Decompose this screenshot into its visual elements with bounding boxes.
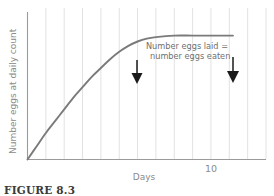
annotation-line-2: number eggs eaten <box>150 51 230 61</box>
axes-group <box>27 12 266 160</box>
x-tick-label: 10 <box>205 163 217 174</box>
arrow-left-icon <box>132 60 143 84</box>
egg-count-chart: 10 Number eggs laid = number eggs eaten … <box>0 0 274 196</box>
gridlines-group <box>46 8 266 160</box>
x-tick-labels-group: 10 <box>205 163 217 174</box>
x-axis-title: Days <box>133 172 156 182</box>
annotations-group: Number eggs laid = number eggs eaten <box>132 41 240 84</box>
annotation-line-1: Number eggs laid = <box>146 41 228 51</box>
figure-caption: FIGURE 8.3 <box>4 185 75 196</box>
figure-container: 10 Number eggs laid = number eggs eaten … <box>0 0 274 196</box>
y-axis-title: Number eggs at daily count <box>8 28 18 154</box>
